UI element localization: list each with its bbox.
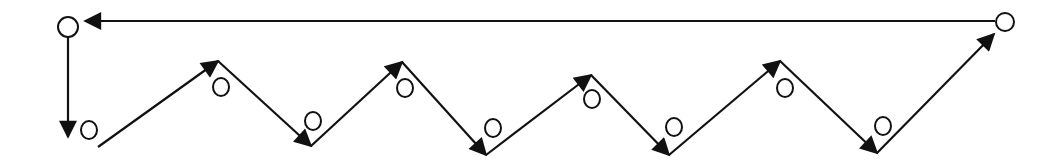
small-node-3: [305, 112, 321, 130]
zigzag-arrow-9: [877, 34, 994, 153]
diagram-svg: [0, 0, 1062, 164]
small-node-9: [875, 117, 891, 135]
top-left-node: [58, 17, 78, 37]
small-node-8: [777, 79, 793, 97]
small-node-4: [397, 79, 413, 97]
zigzag-arrow-6: [591, 75, 669, 155]
small-node-7: [666, 118, 682, 136]
small-node-1: [81, 121, 97, 139]
nodes: [58, 13, 1014, 139]
zigzag-arrow-8: [780, 61, 877, 153]
zigzag-arrow-7: [669, 61, 780, 155]
zigzag-arrow-2: [218, 61, 311, 146]
zigzag-arrow-5: [486, 75, 591, 155]
small-node-5: [485, 119, 501, 137]
small-node-6: [584, 90, 600, 108]
zigzag-arrow-3: [311, 62, 402, 146]
connector-lines: [68, 21, 995, 155]
zigzag-diagram: [0, 0, 1062, 164]
top-right-node: [996, 13, 1014, 31]
small-node-2: [213, 78, 229, 96]
zigzag-arrow-1: [98, 61, 218, 147]
zigzag-arrow-4: [402, 62, 486, 155]
